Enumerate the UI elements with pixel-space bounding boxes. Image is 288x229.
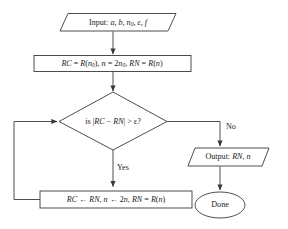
node-input-label: Input: a, b, n0, ε, f — [89, 17, 149, 26]
node-done-label: Done — [211, 200, 229, 209]
edge-update-loop-back-to-decision — [14, 122, 57, 200]
edge-label-yes: Yes — [117, 163, 129, 172]
flowchart-canvas: Input: a, b, n0, ε, f RC = R(n0), n = 2n… — [0, 0, 288, 229]
edge-label-no: No — [226, 122, 236, 131]
edge-decision-no-to-output — [167, 122, 220, 147]
node-decision-label: is |RC − RN| > ε? — [85, 116, 141, 125]
node-init-label: RC = R(n0), n = 2n0, RN = R(n) — [60, 59, 163, 68]
node-update-label: RC ← RN, n ← 2n, RN = R(n) — [66, 195, 166, 204]
node-output-label: Output: RN, n — [205, 152, 250, 161]
flowchart-svg: Input: a, b, n0, ε, f RC = R(n0), n = 2n… — [0, 0, 288, 229]
